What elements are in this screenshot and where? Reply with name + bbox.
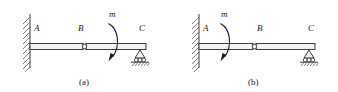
beam-segment-bc-a — [86, 44, 146, 50]
beam-diagram-svg: A B C m (a) — [0, 0, 338, 92]
caption-panel-b: (b) — [248, 77, 259, 87]
wall-support-b — [192, 14, 199, 72]
moment-arrowhead-b — [221, 53, 227, 62]
moment-arc-b — [221, 24, 230, 62]
label-moment-panel-b: m — [221, 9, 228, 19]
roller-support-c-a — [131, 50, 150, 66]
label-point-a-panel-a: A — [33, 23, 40, 33]
moment-arc-a — [109, 24, 118, 62]
ground-hatching-b — [301, 62, 319, 66]
roller-wheel-b-3 — [311, 58, 315, 62]
beam-segment-bc-b — [256, 44, 315, 50]
figure-root: A B C m (a) — [0, 0, 338, 92]
panel-a: A B C m (a) — [23, 9, 150, 87]
support-triangle-a — [135, 50, 145, 58]
roller-wheel-b-2 — [307, 58, 311, 62]
roller-wheel-b-1 — [303, 58, 307, 62]
roller-wheel-a-1 — [134, 58, 138, 62]
moment-curve-b — [221, 24, 230, 57]
roller-wheel-a-2 — [138, 58, 142, 62]
roller-wheel-a-3 — [142, 58, 146, 62]
wall-hatching-b — [192, 17, 199, 72]
caption-panel-a: (a) — [79, 77, 89, 87]
ground-hatching-a — [132, 62, 150, 66]
label-moment-panel-a: m — [109, 9, 116, 19]
beam-segment-ab-a — [30, 44, 83, 50]
label-point-c-panel-b: C — [308, 23, 315, 33]
panel-b: A B C m (b) — [192, 9, 319, 87]
label-point-a-panel-b: A — [202, 23, 209, 33]
wall-hatching-a — [23, 17, 30, 72]
label-point-b-panel-a: B — [78, 23, 84, 33]
label-point-c-panel-a: C — [139, 23, 146, 33]
hinge-b-a — [82, 44, 86, 50]
wall-support-a — [23, 14, 30, 72]
moment-arrowhead-a — [109, 53, 115, 62]
beam-segment-ab-b — [199, 44, 253, 50]
label-point-b-panel-b: B — [257, 23, 263, 33]
moment-curve-a — [109, 24, 118, 57]
roller-support-c-b — [300, 50, 319, 66]
hinge-b-b — [252, 44, 256, 50]
support-triangle-b — [304, 50, 314, 58]
